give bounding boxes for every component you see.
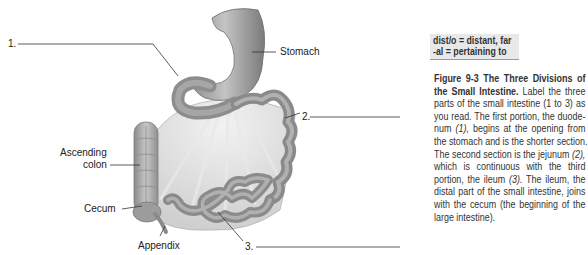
ascending-colon-label-line2: colon [83,159,107,171]
stomach-label: Stomach [280,46,319,58]
cecum-label: Cecum [84,203,116,215]
blank-label-3: 3. [245,241,253,253]
figure-title-part2: the Small Intestine. [434,86,519,97]
definition-al: -al = pertaining to [433,46,506,57]
figure-number: Figure 9-3 [434,73,479,84]
appendix-label: Appendix [138,240,180,252]
word-parts-box: dist/o = distant, far -al = pertaining t… [430,34,519,60]
figure-title-part1: The Three Divisions of [483,73,585,84]
blank-label-1: 1. [8,38,16,50]
blank-label-2: 2. [302,111,310,123]
figure-caption: Figure 9-3 The Three Divisions of the Sm… [434,73,586,224]
ascending-colon-label-line1: Ascending [60,147,107,159]
definition-dist-o: dist/o = distant, far [433,35,506,46]
